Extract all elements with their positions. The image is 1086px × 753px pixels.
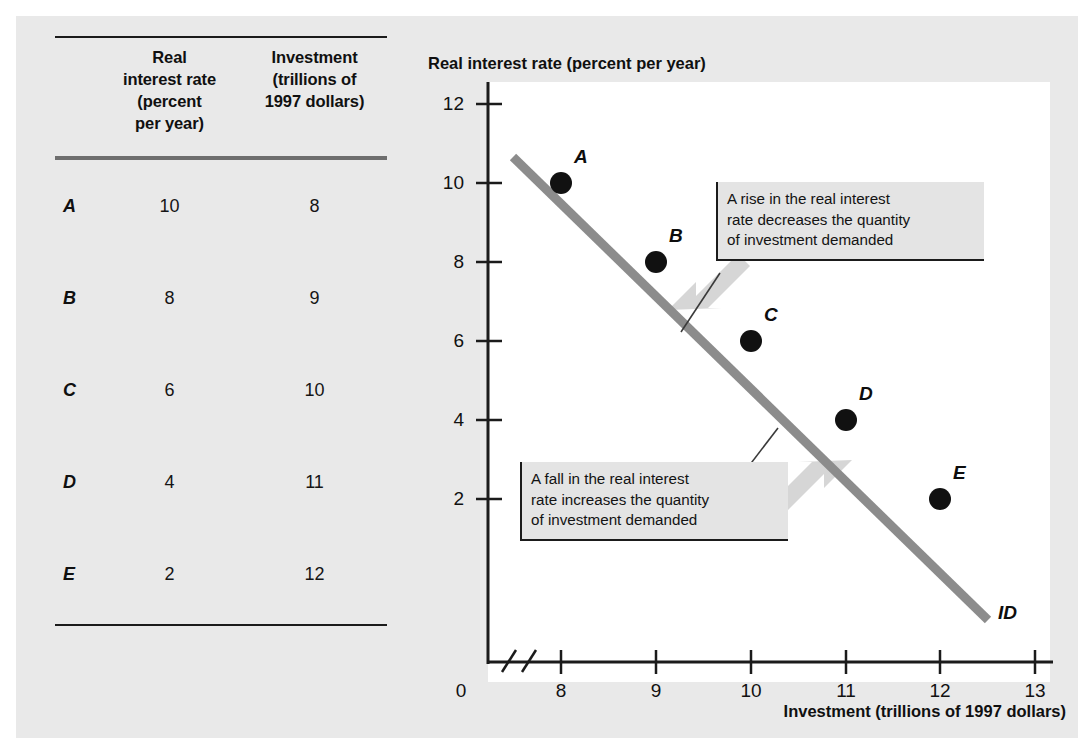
point-label-c: C: [764, 304, 778, 326]
row-label: B: [55, 288, 97, 309]
table-header-interest-rate: Real interest rate (percent per year): [97, 46, 242, 134]
point-label-d: D: [859, 383, 873, 405]
x-tick-label: 8: [541, 680, 581, 702]
table-body: A 10 8 B 8 9 C 6 10 D 4 11 E 2 1: [55, 160, 387, 620]
y-tick-label: 2: [424, 488, 464, 510]
data-point-e: [929, 488, 951, 510]
x-tick-label: 12: [920, 680, 960, 702]
cell-interest-rate: 4: [97, 472, 242, 493]
table-row: D 4 11: [55, 436, 387, 528]
table-rule-bottom: [55, 624, 387, 626]
cell-interest-rate: 8: [97, 288, 242, 309]
data-point-b: [645, 251, 667, 273]
point-label-b: B: [669, 225, 683, 247]
point-label-a: A: [574, 146, 588, 168]
cell-investment: 9: [242, 288, 387, 309]
row-label: E: [55, 564, 97, 585]
x-tick-label: 10: [731, 680, 771, 702]
origin-label: 0: [441, 680, 481, 702]
cell-investment: 11: [242, 472, 387, 493]
y-tick-label: 6: [424, 330, 464, 352]
callout-fall: A fall in the real interest rate increas…: [520, 462, 788, 541]
arrow-up-left-icon: [668, 254, 750, 310]
cell-interest-rate: 2: [97, 564, 242, 585]
table-row: C 6 10: [55, 344, 387, 436]
figure-page: Real interest rate (percent per year) In…: [0, 0, 1086, 753]
cell-interest-rate: 6: [97, 380, 242, 401]
cell-investment: 8: [242, 196, 387, 217]
table-row: A 10 8: [55, 160, 387, 252]
curve-label-id: ID: [998, 602, 1017, 624]
x-tick-label: 9: [636, 680, 676, 702]
data-point-a: [550, 172, 572, 194]
data-point-d: [835, 409, 857, 431]
data-point-c: [740, 330, 762, 352]
point-label-e: E: [953, 462, 966, 484]
x-axis-title: Investment (trillions of 1997 dollars): [784, 702, 1066, 721]
plot-graphics: [428, 30, 1068, 730]
cell-interest-rate: 10: [97, 196, 242, 217]
cell-investment: 12: [242, 564, 387, 585]
row-label: C: [55, 380, 97, 401]
investment-demand-chart: Real interest rate (percent per year): [428, 30, 1068, 730]
cell-investment: 10: [242, 380, 387, 401]
table-header-row: Real interest rate (percent per year) In…: [55, 46, 387, 134]
table-row: E 2 12: [55, 528, 387, 620]
x-tick-label: 13: [1015, 680, 1055, 702]
row-label: D: [55, 472, 97, 493]
x-tick-label: 11: [826, 680, 866, 702]
data-table: Real interest rate (percent per year) In…: [55, 36, 387, 628]
row-label: A: [55, 196, 97, 217]
y-tick-label: 8: [424, 251, 464, 273]
table-row: B 8 9: [55, 252, 387, 344]
table-header-investment: Investment (trillions of 1997 dollars): [242, 46, 387, 134]
table-header-label-spacer: [55, 46, 97, 134]
y-tick-label: 12: [424, 93, 464, 115]
table-rule-top: [55, 36, 387, 38]
y-tick-label: 10: [424, 172, 464, 194]
y-tick-label: 4: [424, 409, 464, 431]
callout-rise: A rise in the real interest rate decreas…: [716, 182, 984, 261]
